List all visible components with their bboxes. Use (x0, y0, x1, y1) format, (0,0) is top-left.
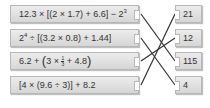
connector-tab[interactable] (134, 81, 139, 91)
connector-tab[interactable] (134, 34, 139, 44)
answer-card-3[interactable]: 115 (175, 52, 202, 70)
answer-label: 12 (183, 33, 193, 43)
expression-text: 6.2 + (19, 56, 42, 66)
connector-tab[interactable] (134, 57, 139, 67)
paren-close: ) (87, 53, 91, 68)
expression-card-2[interactable]: 24 ÷ [(3.2 × 0.8) + 1.44] (10, 29, 139, 47)
connector-line (141, 14, 175, 61)
connector-line (141, 38, 175, 85)
expression-card-3[interactable]: 6.2 + (3 × 13 + 4.8) (10, 52, 139, 70)
connector-tab[interactable] (175, 10, 180, 20)
connector-line (141, 14, 175, 85)
expression-text: 12.3 × [(2 × 1.7) + 6.6] − 2 (19, 9, 124, 19)
answer-label: 115 (183, 56, 197, 66)
expression-text: ÷ [(3.2 × 0.8) + 1.44] (27, 33, 111, 43)
connector-tab[interactable] (175, 81, 180, 91)
expression-text: [4 × (9.6 ÷ 3)] + 8.2 (19, 80, 95, 90)
exponent: 3 (124, 8, 127, 14)
answer-card-1[interactable]: 21 (175, 5, 202, 23)
expression-text: 3 × (46, 56, 61, 66)
expression-text: + 4.8 (64, 56, 87, 66)
expression-card-4[interactable]: [4 × (9.6 ÷ 3)] + 8.2 (10, 76, 139, 94)
answer-card-2[interactable]: 12 (175, 29, 202, 47)
answer-label: 4 (183, 80, 188, 90)
connector-tab[interactable] (175, 57, 180, 67)
connector-tab[interactable] (134, 10, 139, 20)
expression-card-1[interactable]: 12.3 × [(2 × 1.7) + 6.6] − 23 (10, 5, 139, 23)
answer-card-4[interactable]: 4 (175, 76, 202, 94)
connector-tab[interactable] (175, 34, 180, 44)
answer-label: 21 (183, 9, 193, 19)
